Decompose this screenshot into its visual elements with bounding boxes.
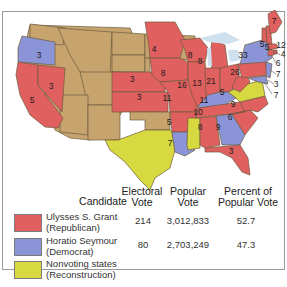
- candidate-name: Ulysses S. Grant(Republican): [46, 212, 117, 233]
- state-florida: [205, 145, 250, 175]
- candidate-name: Horatio Seymour(Democrat): [46, 236, 117, 257]
- svg-text:6: 6: [276, 58, 281, 68]
- svg-text:5: 5: [220, 87, 225, 97]
- state-new-jersey: [266, 62, 272, 78]
- svg-text:3: 3: [274, 79, 279, 89]
- svg-text:9: 9: [231, 99, 236, 109]
- svg-text:9: 9: [216, 122, 221, 132]
- electoral-vote: 80: [128, 239, 158, 250]
- svg-text:5: 5: [265, 42, 270, 52]
- svg-text:7: 7: [272, 16, 277, 26]
- svg-text:3: 3: [229, 146, 234, 156]
- svg-text:11: 11: [200, 95, 209, 105]
- svg-text:13: 13: [192, 78, 202, 88]
- candidate-name: Nonvoting states(Reconstruction): [46, 259, 117, 280]
- svg-text:16: 16: [177, 80, 187, 90]
- svg-text:5: 5: [167, 117, 172, 127]
- percent-vote: 47.3: [228, 239, 264, 250]
- electoral-vote: 214: [128, 215, 158, 226]
- svg-text:5: 5: [30, 95, 35, 105]
- svg-text:21: 21: [206, 76, 216, 86]
- header-percent: Percent ofPopular Vote: [210, 186, 286, 208]
- svg-text:3: 3: [37, 50, 42, 60]
- header-popular: PopularVote: [160, 186, 216, 208]
- svg-text:8: 8: [198, 56, 203, 66]
- svg-text:8: 8: [198, 122, 203, 132]
- swatch-nonvoting: [14, 261, 42, 279]
- svg-text:26: 26: [230, 67, 240, 77]
- svg-text:7: 7: [274, 90, 279, 100]
- popular-vote: 2,703,249: [160, 239, 216, 250]
- svg-text:3: 3: [49, 81, 54, 91]
- election-map: 3 3 5 3 3 4 8 11 5 7 8 16 8 13 21 11 10 …: [0, 0, 287, 200]
- svg-text:33: 33: [238, 50, 248, 60]
- svg-text:8: 8: [161, 68, 166, 78]
- svg-text:11: 11: [163, 93, 172, 103]
- percent-vote: 52.7: [228, 215, 264, 226]
- svg-text:3: 3: [137, 92, 142, 102]
- svg-text:7: 7: [276, 69, 281, 79]
- swatch-democrat: [14, 238, 42, 256]
- svg-text:7: 7: [168, 138, 173, 148]
- state-rhode-island: [274, 50, 277, 54]
- svg-text:8: 8: [188, 50, 193, 60]
- svg-text:3: 3: [130, 74, 135, 84]
- svg-text:6: 6: [228, 112, 233, 122]
- state-michigan: [210, 40, 228, 70]
- state-iowa: [150, 58, 188, 82]
- swatch-republican: [14, 214, 42, 232]
- popular-vote: 3,012,833: [160, 215, 216, 226]
- svg-text:4: 4: [152, 44, 157, 54]
- lake-superior: [200, 32, 240, 44]
- svg-text:4: 4: [281, 49, 286, 59]
- svg-text:10: 10: [193, 107, 203, 117]
